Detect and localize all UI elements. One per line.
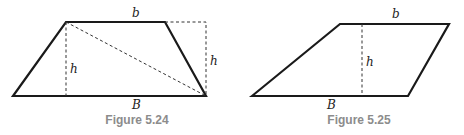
height-label: h [366,55,374,69]
trapezoid-outline [13,22,206,96]
bottom-base-label: B [326,98,336,112]
figure-caption: Figure 5.24 [105,113,169,127]
outer-height-label: h [210,54,218,68]
figure-5-25: b h B Figure 5.25 [252,7,449,127]
figure-caption: Figure 5.25 [327,113,391,127]
bottom-base-label: B [131,98,141,112]
top-base-label: b [392,7,400,21]
diagram-canvas: b h h B Figure 5.24 b h B Figure 5.25 [0,0,464,135]
figure-5-24: b h h B Figure 5.24 [13,6,218,127]
trapezoid-outline [252,24,449,96]
inner-height-label: h [70,62,78,76]
top-base-label: b [132,6,140,20]
